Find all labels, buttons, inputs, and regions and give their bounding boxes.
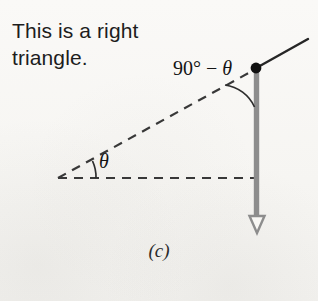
hypotenuse-dashed-line xyxy=(58,70,254,178)
caption-text: This is a right triangle. xyxy=(12,17,172,71)
top-angle-label: 90° − θ xyxy=(173,57,232,80)
top-angle-label-prefix: 90° − xyxy=(173,57,222,79)
base-angle-arc xyxy=(93,161,97,178)
top-angle-theta-symbol: θ xyxy=(222,57,232,79)
top-vertex-dot xyxy=(251,63,262,74)
solid-ray xyxy=(258,39,308,67)
figure-container: This is a right triangle. 90° − θ θ (c) xyxy=(0,0,318,301)
top-angle-arc xyxy=(225,85,255,107)
figure-letter-label: (c) xyxy=(0,240,318,262)
base-angle-theta-label: θ xyxy=(99,150,109,173)
vector-arrowhead-icon xyxy=(250,216,265,233)
